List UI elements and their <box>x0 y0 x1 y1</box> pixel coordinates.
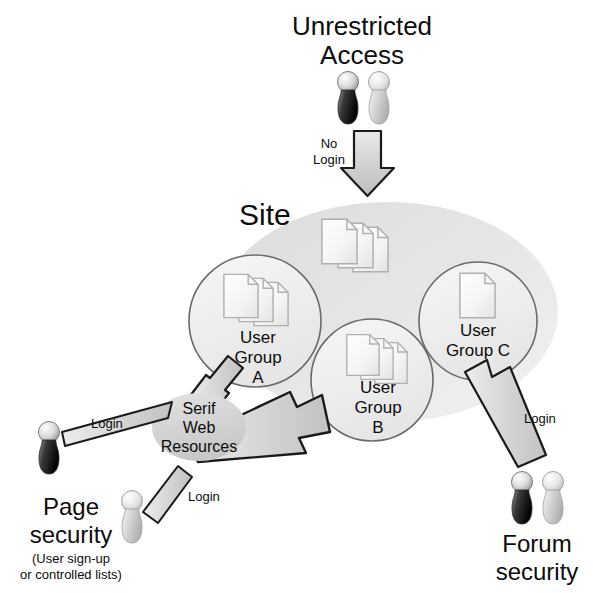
no-login-label-line1: No <box>321 136 338 151</box>
page-security-note2: or controlled lists) <box>20 567 122 582</box>
forum-security-line1: Forum <box>502 530 571 557</box>
user-group-b-line3: B <box>372 418 383 437</box>
hub-label-line1: Serif <box>183 400 216 417</box>
person-light-icon <box>369 72 390 125</box>
document-icon <box>347 335 379 376</box>
no-login-arrow: No Login <box>313 131 394 196</box>
person-dark-icon <box>338 72 359 125</box>
login-label-right: Login <box>524 411 556 426</box>
hub-label-line2: Web <box>183 419 216 436</box>
no-login-label-line2: Login <box>313 152 345 167</box>
document-icon <box>322 219 357 263</box>
diagram-root: Unrestricted Access No Login Site User G… <box>0 0 593 593</box>
user-group-c-line2: Group C <box>446 341 510 360</box>
person-dark-icon <box>39 422 60 475</box>
unrestricted-access-line2: Access <box>320 40 404 70</box>
user-group-a: User Group A <box>189 255 321 387</box>
document-icon <box>460 273 495 317</box>
user-group-b-line1: User <box>360 378 396 397</box>
user-group-a-line2: Group <box>234 348 281 367</box>
user-group-b: User Group B <box>311 319 433 441</box>
document-icon <box>224 274 258 317</box>
page-security-label: Page security (User sign-up or controlle… <box>20 493 122 582</box>
security-architecture-diagram: Unrestricted Access No Login Site User G… <box>0 0 593 593</box>
down-arrow-icon <box>341 131 394 196</box>
user-group-a-line3: A <box>252 368 264 387</box>
site-label: Site <box>239 198 291 231</box>
user-group-c: User Group C <box>419 262 537 380</box>
person-dark-icon <box>512 472 533 525</box>
login-label-bottom-left: Login <box>188 489 220 504</box>
forum-security-label: Forum security <box>496 530 579 585</box>
page-security-line2: security <box>30 521 113 548</box>
forum-security-line2: security <box>496 558 579 585</box>
arrow-forum-to-group-c: Login <box>465 360 556 467</box>
person-light-icon <box>122 491 143 544</box>
forum-security-people <box>512 472 564 525</box>
unrestricted-access-people <box>338 72 390 125</box>
user-group-c-line1: User <box>460 321 496 340</box>
site-document-stack <box>322 219 388 271</box>
person-light-icon <box>543 472 564 525</box>
hub-label-line3: Resources <box>161 438 237 455</box>
page-security-line1: Page <box>43 493 99 520</box>
band-page-security-bottom: Login <box>143 466 220 523</box>
user-group-a-line1: User <box>240 328 276 347</box>
unrestricted-access-line1: Unrestricted <box>292 11 432 41</box>
connector-band <box>143 466 192 523</box>
unrestricted-access-heading: Unrestricted Access <box>292 11 432 70</box>
page-security-note1: (User sign-up <box>32 551 110 566</box>
login-label-top-left: Login <box>91 416 123 431</box>
user-group-b-line2: Group <box>354 398 401 417</box>
